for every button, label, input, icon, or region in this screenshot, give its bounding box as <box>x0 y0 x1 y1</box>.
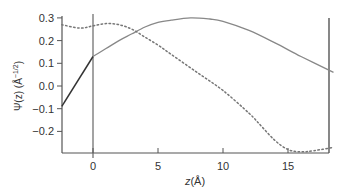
y-axis-title-main: Ψ(z) (Å <box>12 78 24 111</box>
solid-series-substrate-segment <box>62 56 93 106</box>
y-tick-label: 0.2 <box>39 35 54 47</box>
x-tick-label: 0 <box>90 160 96 172</box>
svg-text:Ψ(z) (Å−1/2): Ψ(z) (Å−1/2) <box>12 61 24 111</box>
y-tick-label: −0.2 <box>32 125 54 137</box>
x-axis-title-unit: (Å) <box>190 175 205 187</box>
x-axis-title: z(Å) <box>184 175 205 187</box>
y-tick-label: 0.0 <box>39 80 54 92</box>
y-tick-label: 0.1 <box>39 57 54 69</box>
y-axis-title: Ψ(z) (Å−1/2) <box>12 61 24 111</box>
y-axis-title-sup: −1/2 <box>12 64 19 78</box>
y-tick-label: 0.3 <box>39 12 54 24</box>
solid-series-line <box>93 18 334 73</box>
series-group <box>62 18 334 152</box>
y-axis-title-close: ) <box>13 61 24 64</box>
y-tick-label: −0.1 <box>32 103 54 115</box>
dotted-series-line <box>62 24 334 152</box>
x-tick-label: 15 <box>282 160 294 172</box>
x-tick-label: 10 <box>217 160 229 172</box>
x-tick-label: 5 <box>155 160 161 172</box>
wavefunction-chart: 0.30.20.10.0−0.1−0.2051015 z(Å) Ψ(z) (Å−… <box>0 0 343 196</box>
